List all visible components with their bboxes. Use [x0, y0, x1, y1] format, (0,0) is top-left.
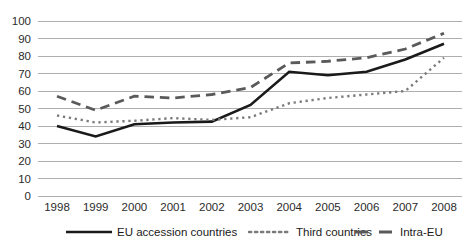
y-tick-label-30: 30	[18, 138, 31, 150]
y-tick-label-50: 50	[18, 103, 31, 115]
x-tick-label-1998: 1998	[44, 201, 70, 213]
x-tick-label-2000: 2000	[122, 201, 148, 213]
y-tick-label-70: 70	[18, 68, 31, 80]
x-tick-label-2004: 2004	[276, 201, 302, 213]
y-tick-label-100: 100	[12, 15, 31, 27]
x-tick-label-2005: 2005	[315, 201, 341, 213]
x-tick-label-2006: 2006	[354, 201, 380, 213]
x-tick-label-2008: 2008	[431, 201, 457, 213]
x-tick-label-2003: 2003	[238, 201, 264, 213]
y-tick-label-80: 80	[18, 50, 31, 62]
y-tick-label-10: 10	[18, 173, 31, 185]
chart-canvas: 1009080706050403020100 19981999200020012…	[0, 0, 468, 250]
x-axis-tick-labels: 1998199920002001200220032004200520062007…	[44, 201, 457, 213]
legend-label-eu-accession-countries: EU accession countries	[117, 226, 237, 238]
y-tick-label-40: 40	[18, 120, 31, 132]
y-tick-label-60: 60	[18, 85, 31, 97]
y-tick-label-20: 20	[18, 155, 31, 167]
y-tick-label-90: 90	[18, 33, 31, 45]
x-tick-label-1999: 1999	[83, 201, 109, 213]
legend-label-intra-eu: Intra-EU	[400, 226, 443, 238]
line-chart: 1009080706050403020100 19981999200020012…	[0, 0, 468, 250]
x-tick-label-2002: 2002	[199, 201, 225, 213]
y-tick-label-0: 0	[25, 190, 31, 202]
x-tick-label-2007: 2007	[393, 201, 419, 213]
x-tick-label-2001: 2001	[160, 201, 186, 213]
